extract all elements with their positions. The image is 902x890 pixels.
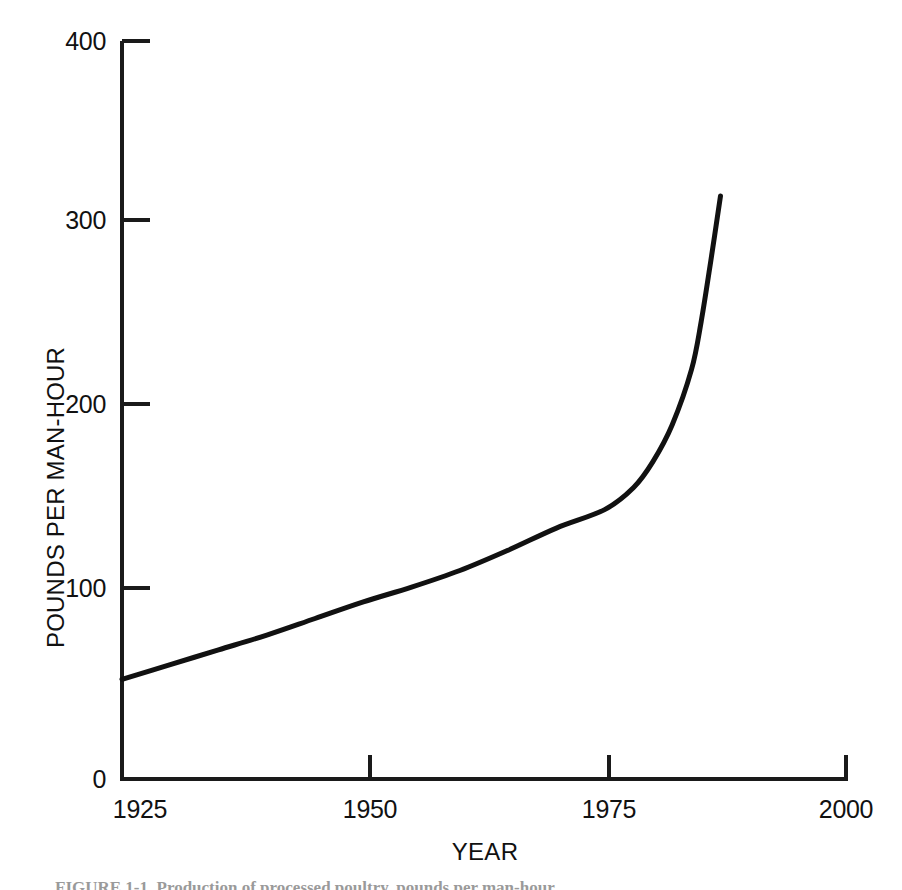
- figure-container: 400 300 200 100 0 1925 1950 1975 2000 PO…: [0, 0, 902, 890]
- figure-caption: FIGURE 1-1. Production of processed poul…: [55, 878, 895, 890]
- x-axis-title: YEAR: [420, 838, 550, 866]
- y-tick-label-0: 0: [44, 765, 106, 794]
- plot-background: [0, 0, 902, 890]
- y-tick-label-300: 300: [44, 206, 106, 235]
- y-axis-title: POUNDS PER MAN-HOUR: [42, 347, 70, 648]
- y-tick-label-400: 400: [44, 27, 106, 56]
- x-tick-label-1950: 1950: [325, 795, 415, 824]
- x-tick-label-2000: 2000: [801, 795, 891, 824]
- x-tick-label-1975: 1975: [564, 795, 654, 824]
- x-tick-label-1925: 1925: [95, 795, 185, 824]
- line-chart-plot: [0, 0, 902, 890]
